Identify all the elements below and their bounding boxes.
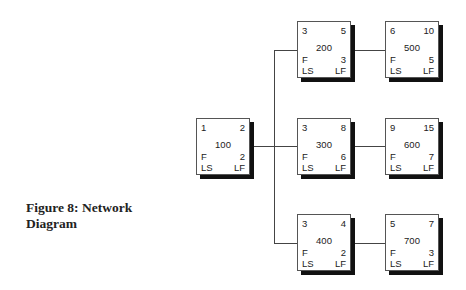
activity-id: 400 xyxy=(298,236,350,246)
early-start: 3 xyxy=(302,123,307,133)
late-finish-label: LF xyxy=(335,163,346,173)
activity-id: 500 xyxy=(386,43,438,53)
early-start: 5 xyxy=(390,219,395,229)
duration: 5 xyxy=(429,55,434,65)
activity-id: 100 xyxy=(197,140,249,150)
node-300: 3 8 300 F 6 LS LF xyxy=(297,118,351,175)
activity-id: 200 xyxy=(298,43,350,53)
network-diagram: 1 2 100 F 2 LS LF 3 5 200 F 3 LS LF 3 8 … xyxy=(0,0,466,290)
early-finish: 5 xyxy=(341,26,346,36)
early-finish: 10 xyxy=(423,26,434,36)
early-start: 9 xyxy=(390,123,395,133)
caption-line-1: Figure 8: Network xyxy=(26,200,166,216)
late-start-label: LS xyxy=(302,163,314,173)
duration: 7 xyxy=(429,152,434,162)
edge-trunk-300 xyxy=(274,146,297,147)
late-start-label: LS xyxy=(302,259,314,269)
late-start-label: LS xyxy=(390,163,402,173)
late-start-label: LS xyxy=(201,163,213,173)
activity-id: 600 xyxy=(386,140,438,150)
late-finish-label: LF xyxy=(234,163,245,173)
float-label: F xyxy=(302,248,308,258)
duration: 3 xyxy=(429,248,434,258)
duration: 6 xyxy=(341,152,346,162)
node-200: 3 5 200 F 3 LS LF xyxy=(297,21,351,78)
late-start-label: LS xyxy=(302,66,314,76)
edge-200-500 xyxy=(354,50,385,51)
early-start: 3 xyxy=(302,219,307,229)
float-label: F xyxy=(390,55,396,65)
float-label: F xyxy=(201,152,207,162)
late-finish-label: LF xyxy=(423,259,434,269)
duration: 2 xyxy=(240,152,245,162)
late-start-label: LS xyxy=(390,259,402,269)
edge-trunk-400 xyxy=(274,243,297,244)
float-label: F xyxy=(390,152,396,162)
late-finish-label: LF xyxy=(423,66,434,76)
node-600: 9 15 600 F 7 LS LF xyxy=(385,118,439,175)
early-finish: 15 xyxy=(423,123,434,133)
early-start: 1 xyxy=(201,123,206,133)
node-100: 1 2 100 F 2 LS LF xyxy=(196,118,250,175)
late-finish-label: LF xyxy=(423,163,434,173)
early-start: 3 xyxy=(302,26,307,36)
float-label: F xyxy=(302,152,308,162)
late-finish-label: LF xyxy=(335,66,346,76)
edge-trunk-200 xyxy=(274,50,297,51)
duration: 3 xyxy=(341,55,346,65)
activity-id: 700 xyxy=(386,236,438,246)
duration: 2 xyxy=(341,248,346,258)
figure-caption: Figure 8: Network Diagram xyxy=(26,200,166,232)
late-finish-label: LF xyxy=(335,259,346,269)
float-label: F xyxy=(390,248,396,258)
early-finish: 8 xyxy=(341,123,346,133)
early-finish: 7 xyxy=(429,219,434,229)
edge-400-700 xyxy=(354,243,385,244)
early-start: 6 xyxy=(390,26,395,36)
node-400: 3 4 400 F 2 LS LF xyxy=(297,214,351,271)
edge-100-trunk xyxy=(253,146,274,147)
early-finish: 4 xyxy=(341,219,346,229)
late-start-label: LS xyxy=(390,66,402,76)
edge-trunk-vertical xyxy=(274,50,275,244)
edge-300-600 xyxy=(354,146,385,147)
early-finish: 2 xyxy=(240,123,245,133)
caption-line-2: Diagram xyxy=(26,216,166,232)
node-500: 6 10 500 F 5 LS LF xyxy=(385,21,439,78)
float-label: F xyxy=(302,55,308,65)
activity-id: 300 xyxy=(298,140,350,150)
node-700: 5 7 700 F 3 LS LF xyxy=(385,214,439,271)
